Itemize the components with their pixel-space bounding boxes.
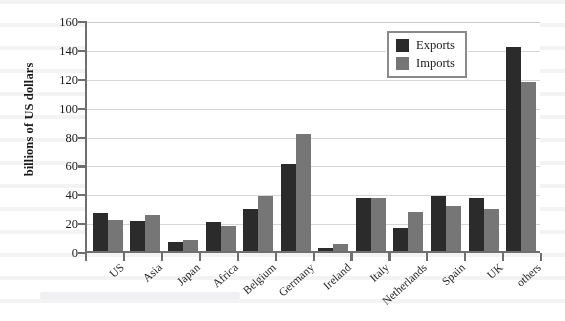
y-axis-tick-label: 20 xyxy=(20,218,78,230)
bar-exports[interactable] xyxy=(93,213,108,251)
bar-imports[interactable] xyxy=(484,209,499,251)
legend-swatch-imports xyxy=(396,57,409,70)
plot-area xyxy=(85,22,540,253)
bar-exports[interactable] xyxy=(318,248,333,251)
x-axis-tick xyxy=(540,253,542,261)
bar-exports[interactable] xyxy=(168,242,183,251)
y-axis-tick-label: 40 xyxy=(20,189,78,201)
bar-imports[interactable] xyxy=(333,244,348,251)
x-axis-ticks xyxy=(85,253,540,261)
bar-group[interactable] xyxy=(164,22,202,251)
x-axis-tick xyxy=(275,253,277,261)
x-axis-tick xyxy=(161,253,163,261)
y-axis-tick-labels: 020406080100120140160 xyxy=(20,22,78,253)
bar-imports[interactable] xyxy=(446,206,461,251)
bar-exports[interactable] xyxy=(431,196,446,251)
bar-imports[interactable] xyxy=(521,82,536,251)
bar-group[interactable] xyxy=(239,22,277,251)
y-axis-tick xyxy=(78,21,87,23)
y-axis-tick xyxy=(78,79,87,81)
y-axis-tick xyxy=(78,165,87,167)
x-axis-tick xyxy=(426,253,428,261)
bar-exports[interactable] xyxy=(506,47,521,251)
x-axis-tick xyxy=(502,253,504,261)
bar-group[interactable] xyxy=(127,22,165,251)
bar-group[interactable] xyxy=(277,22,315,251)
bar-group[interactable] xyxy=(465,22,503,251)
x-axis-tick xyxy=(313,253,315,261)
x-axis-tick xyxy=(464,253,466,261)
bar-imports[interactable] xyxy=(258,196,273,251)
x-axis-tick xyxy=(199,253,201,261)
bar-exports[interactable] xyxy=(206,222,221,251)
bar-imports[interactable] xyxy=(221,226,236,251)
legend-swatch-exports xyxy=(396,39,409,52)
x-axis-tick xyxy=(237,253,239,261)
chart-legend: ExportsImports xyxy=(387,31,467,78)
bar-group[interactable] xyxy=(314,22,352,251)
y-axis-tick xyxy=(78,194,87,196)
legend-item-exports[interactable]: Exports xyxy=(396,39,455,52)
bar-imports[interactable] xyxy=(371,198,386,251)
bar-exports[interactable] xyxy=(393,228,408,251)
x-axis-tick xyxy=(85,253,87,261)
bar-groups xyxy=(89,22,540,251)
y-axis-tick-label: 0 xyxy=(20,247,78,259)
bar-exports[interactable] xyxy=(469,198,484,251)
bar-group[interactable] xyxy=(502,22,540,251)
y-axis-tick-label: 80 xyxy=(20,132,78,144)
bar-group[interactable] xyxy=(89,22,127,251)
bar-chart: billions of US dollars 02040608010012014… xyxy=(0,0,565,321)
y-axis-tick-label: 60 xyxy=(20,160,78,172)
bar-exports[interactable] xyxy=(356,198,371,251)
y-axis-tick-label: 140 xyxy=(20,45,78,57)
bar-imports[interactable] xyxy=(296,134,311,251)
y-axis-tick xyxy=(78,50,87,52)
bar-group[interactable] xyxy=(352,22,390,251)
x-axis-tick xyxy=(350,253,352,261)
y-axis-tick-label: 120 xyxy=(20,74,78,86)
bar-group[interactable] xyxy=(202,22,240,251)
y-axis-tick-label: 160 xyxy=(20,16,78,28)
bar-imports[interactable] xyxy=(108,220,123,251)
x-axis-tick xyxy=(123,253,125,261)
y-axis-tick-label: 100 xyxy=(20,103,78,115)
y-axis-tick xyxy=(78,223,87,225)
bar-exports[interactable] xyxy=(243,209,258,251)
bar-exports[interactable] xyxy=(281,164,296,251)
legend-item-imports[interactable]: Imports xyxy=(396,57,455,70)
bar-imports[interactable] xyxy=(183,240,198,251)
bar-exports[interactable] xyxy=(130,221,145,251)
y-axis-tick xyxy=(78,108,87,110)
bar-imports[interactable] xyxy=(408,212,423,251)
bar-imports[interactable] xyxy=(145,215,160,251)
x-axis-tick-labels: USAsiaJapanAfricaBelgiumGermanyIrelandIt… xyxy=(85,261,540,319)
y-axis-tick xyxy=(78,137,87,139)
x-axis-tick xyxy=(388,253,390,261)
legend-label: Imports xyxy=(416,57,455,70)
legend-label: Exports xyxy=(416,39,455,52)
